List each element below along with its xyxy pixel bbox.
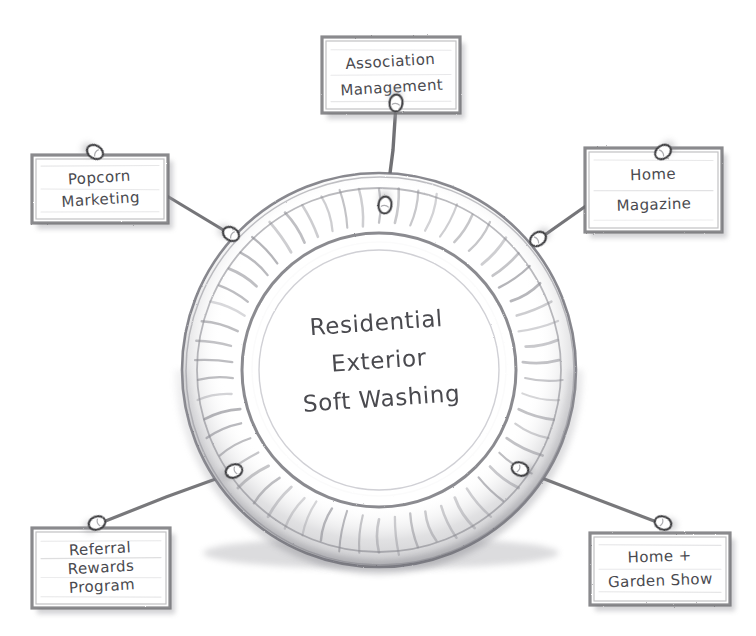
sketch-board: Residential Exterior Soft Washing Associ…	[0, 0, 756, 636]
card-home-magazine[interactable]: HomeMagazine	[585, 148, 727, 238]
pin-card-home-garden-show[interactable]	[653, 513, 679, 534]
card-label-line-3: Program	[69, 575, 136, 597]
card-popcorn-marketing[interactable]: PopcornMarketing	[32, 155, 173, 229]
card-label-line-2: Magazine	[616, 194, 691, 214]
card-label-line-2: Garden Show	[608, 570, 713, 592]
card-rule-line	[599, 545, 721, 546]
card-rule-line	[331, 75, 451, 76]
card-rule-line	[594, 160, 713, 161]
card-label-line-1: Home	[630, 165, 676, 184]
card-referral-rewards-program[interactable]: ReferralRewardsProgram	[32, 528, 175, 614]
card-home-garden-show[interactable]: Home +Garden Show	[590, 533, 735, 611]
card-rule-line	[599, 592, 721, 593]
card-rule-line	[41, 166, 159, 167]
center-plate[interactable]: Residential Exterior Soft Washing	[182, 173, 576, 569]
card-label: ReferralRewardsProgram	[66, 538, 135, 597]
concept-sketch-canvas: Residential Exterior Soft Washing Associ…	[0, 0, 756, 636]
card-label-line-1: Home +	[627, 546, 692, 566]
